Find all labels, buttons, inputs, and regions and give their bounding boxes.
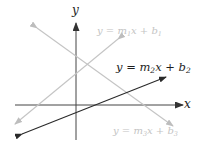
coordinate-diagram: y x y = m1x + b1 y = m2x + b2 y = m3x + … [0,0,197,149]
y-axis-label: y [72,4,79,16]
line-1-equation: y = m1x + b1 [97,26,162,37]
line-3-equation: y = m3x + b3 [113,126,178,137]
x-axis-label: x [184,98,191,110]
line-2-equation: y = m2x + b2 [116,62,191,74]
line-3 [37,28,173,126]
line-1 [15,39,118,124]
